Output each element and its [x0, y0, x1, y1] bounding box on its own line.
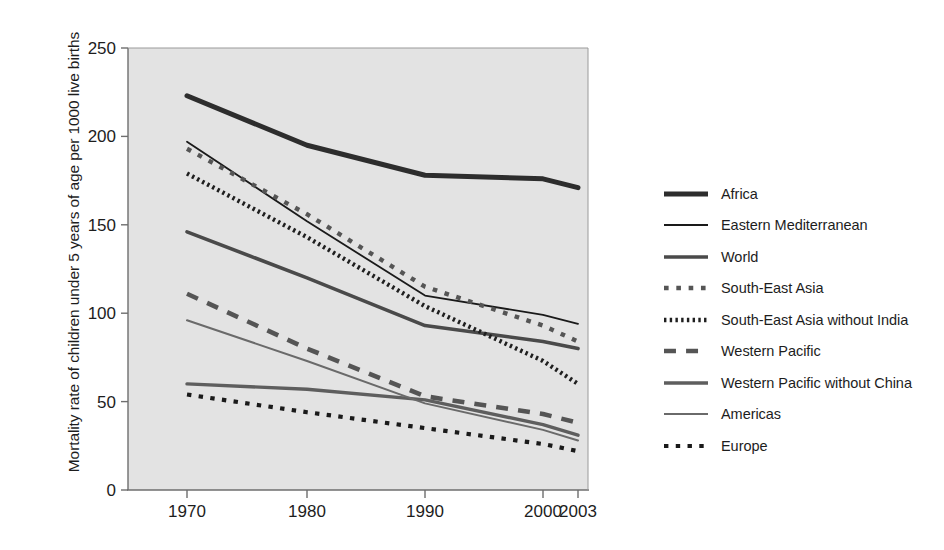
legend-label: South-East Asia	[721, 280, 823, 296]
chart-root: Mortality rate of children under 5 years…	[0, 0, 944, 550]
x-tick-label: 2000	[524, 502, 562, 521]
legend-line-swatch-icon	[663, 313, 709, 327]
legend-label: World	[721, 249, 758, 265]
x-tick-label: 1970	[168, 502, 206, 521]
legend-line-swatch-icon	[663, 281, 709, 295]
legend-item-africa[interactable]: Africa	[663, 178, 939, 210]
x-tick-label: 1980	[288, 502, 326, 521]
legend-line-swatch-icon	[663, 187, 709, 201]
legend-item-south-east-asia[interactable]: South-East Asia	[663, 273, 939, 305]
legend-line-swatch-icon	[663, 344, 709, 358]
legend-label: Europe	[721, 438, 767, 454]
y-tick-label: 0	[107, 481, 116, 500]
legend-line-swatch-icon	[663, 376, 709, 390]
y-tick-label: 150	[88, 216, 116, 235]
y-tick-label: 200	[88, 127, 116, 146]
legend-line-swatch-icon	[663, 218, 709, 232]
legend-item-western-pacific[interactable]: Western Pacific	[663, 336, 939, 368]
legend-label: Western Pacific without China	[721, 375, 912, 391]
chart-legend: AfricaEastern MediterraneanWorldSouth-Ea…	[663, 178, 939, 462]
y-tick-label: 50	[97, 393, 116, 412]
legend-label: Americas	[721, 406, 781, 422]
legend-line-swatch-icon	[663, 439, 709, 453]
legend-label: Western Pacific	[721, 343, 821, 359]
y-tick-label: 100	[88, 304, 116, 323]
legend-item-western-pacific-without-china[interactable]: Western Pacific without China	[663, 367, 939, 399]
legend-label: Eastern Mediterranean	[721, 217, 867, 233]
legend-item-europe[interactable]: Europe	[663, 430, 939, 462]
x-tick-label: 2003	[559, 502, 597, 521]
legend-line-swatch-icon	[663, 407, 709, 421]
legend-item-world[interactable]: World	[663, 241, 939, 273]
legend-label: South-East Asia without India	[721, 312, 908, 328]
legend-item-eastern-mediterranean[interactable]: Eastern Mediterranean	[663, 210, 939, 242]
legend-item-americas[interactable]: Americas	[663, 399, 939, 431]
legend-label: Africa	[721, 186, 758, 202]
x-tick-label: 1990	[406, 502, 444, 521]
legend-line-swatch-icon	[663, 250, 709, 264]
y-tick-label: 250	[88, 39, 116, 58]
legend-item-south-east-asia-without-india[interactable]: South-East Asia without India	[663, 304, 939, 336]
